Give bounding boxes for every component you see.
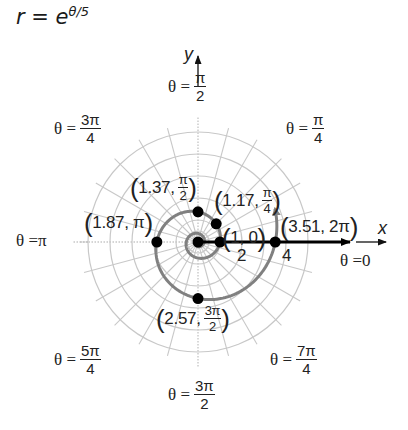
angle-label-pi-2: θ = π2 bbox=[168, 70, 206, 103]
angle-label-0: θ = 0 bbox=[340, 251, 370, 271]
denominator: 4 bbox=[302, 360, 310, 376]
numerator: 3π bbox=[80, 112, 101, 129]
numerator: π bbox=[178, 173, 189, 188]
denominator: 4 bbox=[86, 360, 94, 376]
fraction: 7π4 bbox=[296, 343, 317, 376]
comma: , bbox=[196, 309, 200, 329]
point-r: 1.17 bbox=[222, 191, 254, 211]
angle-label-3pi-2: θ = 3π2 bbox=[168, 378, 215, 411]
numerator: π bbox=[194, 70, 206, 87]
origin-point bbox=[193, 237, 204, 248]
numerator: π bbox=[312, 112, 324, 129]
point-label-3.51-2pi: (3.51, 2π) bbox=[280, 214, 358, 240]
angle-prefix: θ = bbox=[340, 251, 362, 271]
point-r: 1.87 bbox=[92, 213, 124, 233]
point-label-1.87-pi: (1.87, π) bbox=[84, 210, 153, 236]
y-axis-label: y bbox=[184, 44, 193, 65]
paren-open: ( bbox=[214, 188, 222, 214]
paren-open: ( bbox=[156, 306, 164, 332]
grid-spoke bbox=[84, 242, 198, 273]
comma: , bbox=[240, 228, 249, 248]
paren-open: ( bbox=[222, 225, 230, 251]
denominator: 2 bbox=[196, 87, 204, 103]
angle-prefix: θ = bbox=[286, 119, 308, 139]
x-axis-label: x bbox=[378, 218, 387, 239]
angle-label-5pi-4: θ = 5π4 bbox=[54, 343, 101, 376]
point-r: 1 bbox=[230, 228, 239, 248]
paren-open: ( bbox=[280, 214, 288, 240]
fraction: 3π2 bbox=[194, 378, 215, 411]
angle-label-pi: θ = π bbox=[16, 231, 47, 251]
fraction: π2 bbox=[178, 173, 189, 202]
paren-open: ( bbox=[84, 210, 92, 236]
fraction: π4 bbox=[312, 112, 324, 145]
numerator: 3π bbox=[204, 304, 222, 319]
angle-label-pi-4: θ = π4 bbox=[286, 112, 324, 145]
fraction: 3π2 bbox=[204, 304, 222, 333]
denominator: 4 bbox=[86, 129, 94, 145]
angle-label-7pi-4: θ = 7π4 bbox=[270, 343, 317, 376]
denominator: 2 bbox=[180, 188, 187, 202]
denominator: 4 bbox=[314, 129, 322, 145]
paren-close: ) bbox=[350, 214, 358, 240]
angle-prefix: θ = bbox=[16, 231, 38, 251]
radial-tick-4: 4 bbox=[282, 246, 291, 266]
paren-close: ) bbox=[145, 210, 153, 236]
numerator: 5π bbox=[80, 343, 101, 360]
comma: , bbox=[170, 178, 174, 198]
data-point bbox=[192, 206, 203, 217]
point-label-1.37-pi-2: (1.37, π2) bbox=[130, 173, 197, 202]
angle-prefix: θ = bbox=[54, 119, 76, 139]
angle-prefix: θ = bbox=[270, 350, 292, 370]
comma: , bbox=[254, 191, 258, 211]
fraction: π4 bbox=[262, 186, 273, 215]
comma: , bbox=[320, 217, 329, 237]
point-label-1.17-pi-4: (1.17, π4) bbox=[214, 186, 281, 215]
numerator: π bbox=[262, 186, 273, 201]
point-r: 3.51 bbox=[288, 217, 320, 237]
angle-prefix: θ = bbox=[168, 385, 190, 405]
point-label-2.57-3pi-2: (2.57, 3π2) bbox=[156, 304, 230, 333]
angle-label-3pi-4: θ = 3π4 bbox=[54, 112, 101, 145]
fraction: 5π4 bbox=[80, 343, 101, 376]
data-point bbox=[151, 237, 162, 248]
paren-close: ) bbox=[272, 188, 280, 214]
angle-prefix: θ = bbox=[54, 350, 76, 370]
point-theta: 0 bbox=[248, 228, 257, 248]
angle-value: π bbox=[38, 231, 47, 251]
point-theta: π bbox=[133, 213, 144, 233]
point-theta: 2π bbox=[329, 217, 350, 237]
fraction: π2 bbox=[194, 70, 206, 103]
angle-value: 0 bbox=[362, 251, 371, 271]
point-label-1-0: (1, 0) bbox=[222, 225, 266, 251]
denominator: 2 bbox=[209, 319, 216, 333]
paren-close: ) bbox=[258, 225, 266, 251]
numerator: 7π bbox=[296, 343, 317, 360]
point-r: 1.37 bbox=[138, 178, 170, 198]
data-point bbox=[211, 218, 222, 229]
numerator: 3π bbox=[194, 378, 215, 395]
comma: , bbox=[124, 213, 133, 233]
point-r: 2.57 bbox=[164, 309, 196, 329]
denominator: 4 bbox=[264, 201, 271, 215]
denominator: 2 bbox=[200, 395, 208, 411]
paren-close: ) bbox=[221, 306, 229, 332]
paren-close: ) bbox=[188, 175, 196, 201]
fraction: 3π4 bbox=[80, 112, 101, 145]
paren-open: ( bbox=[130, 175, 138, 201]
angle-prefix: θ = bbox=[168, 77, 190, 97]
data-point bbox=[193, 293, 204, 304]
